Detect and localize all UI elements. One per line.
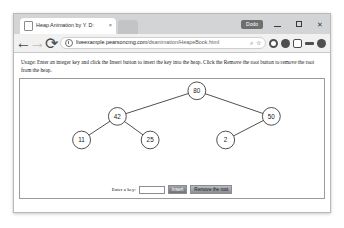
close-window-button[interactable]: ✕ bbox=[309, 14, 330, 34]
browser-window: Heap Animation by Y. D: × Dodo ✕ ← → ⟳ l… bbox=[13, 13, 331, 213]
profile-chip[interactable]: Dodo bbox=[241, 20, 263, 29]
heap-node-value: 50 bbox=[268, 113, 276, 120]
heap-node: 80 bbox=[188, 82, 206, 100]
profile-menu-icon[interactable] bbox=[317, 39, 326, 48]
tab-title: Heap Animation by Y. D: bbox=[36, 23, 106, 28]
search-icon[interactable]: ⌕ bbox=[250, 40, 253, 46]
forward-icon[interactable]: → bbox=[32, 38, 43, 49]
page-icon bbox=[24, 21, 33, 31]
heap-node: 2 bbox=[217, 131, 235, 149]
url-path: /dsanimation/HeapeBook.html bbox=[147, 40, 219, 45]
heap-node-value: 2 bbox=[224, 137, 228, 144]
maximize-button[interactable] bbox=[288, 14, 309, 34]
bookmark-star-icon[interactable]: ☆ bbox=[256, 40, 261, 46]
insert-button[interactable]: Insert bbox=[168, 185, 188, 194]
reload-icon[interactable]: ⟳ bbox=[46, 38, 57, 49]
page-content: Usage: Enter an integer key and click th… bbox=[14, 53, 330, 212]
browser-tab[interactable]: Heap Animation by Y. D: × bbox=[20, 18, 116, 34]
minimize-icon bbox=[274, 22, 281, 27]
applet-controls: Enter a key: Insert Remove the root bbox=[20, 185, 324, 194]
remove-root-button[interactable]: Remove the root bbox=[190, 185, 232, 194]
heap-node: 25 bbox=[141, 131, 159, 149]
heap-node: 42 bbox=[108, 108, 126, 126]
url-text: liveexample.pearsoncmg.com/dsanimation/H… bbox=[76, 40, 247, 45]
minimize-button[interactable] bbox=[267, 14, 288, 34]
extension-icon-1[interactable] bbox=[269, 39, 278, 48]
extension-icon-4[interactable] bbox=[305, 39, 314, 48]
window-controls: Dodo ✕ bbox=[241, 14, 330, 34]
tab-strip: Heap Animation by Y. D: × Dodo ✕ bbox=[14, 14, 330, 34]
extension-icon-2[interactable] bbox=[281, 39, 290, 48]
heap-tree-visualization: 80425011252 bbox=[20, 79, 324, 198]
browser-toolbar: ← → ⟳ liveexample.pearsoncmg.com/dsanima… bbox=[14, 34, 330, 53]
site-info-icon[interactable] bbox=[65, 39, 73, 47]
heap-node: 11 bbox=[73, 131, 91, 149]
key-input[interactable] bbox=[139, 186, 165, 194]
heap-node: 50 bbox=[262, 108, 280, 126]
heap-node-value: 80 bbox=[193, 87, 201, 94]
address-bar[interactable]: liveexample.pearsoncmg.com/dsanimation/H… bbox=[60, 37, 266, 49]
heap-edge bbox=[197, 91, 272, 117]
new-tab-button[interactable] bbox=[118, 20, 138, 34]
usage-instructions: Usage: Enter an integer key and click th… bbox=[21, 59, 323, 74]
key-input-label: Enter a key: bbox=[112, 187, 136, 192]
maximize-icon bbox=[296, 21, 302, 27]
heap-edge bbox=[117, 91, 196, 117]
heap-node-value: 25 bbox=[147, 137, 155, 144]
back-icon[interactable]: ← bbox=[18, 38, 29, 49]
close-icon[interactable]: × bbox=[109, 23, 112, 29]
heap-node-value: 42 bbox=[114, 113, 122, 120]
heap-applet-panel: 80425011252 Enter a key: Insert Remove t… bbox=[19, 78, 325, 199]
heap-node-value: 11 bbox=[78, 137, 85, 144]
url-domain: liveexample.pearsoncmg.com bbox=[76, 40, 147, 45]
extension-icon-3[interactable] bbox=[293, 39, 302, 48]
